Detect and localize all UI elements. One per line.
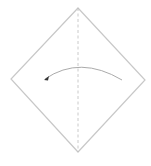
diagram-svg [0, 0, 151, 166]
origami-diagram [0, 0, 151, 166]
